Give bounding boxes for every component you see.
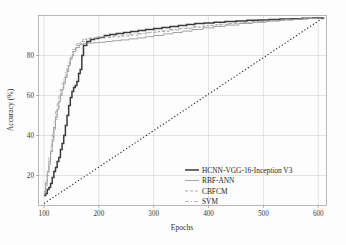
accuracy-vs-epochs-chart: 100200300400500600 20406080 Epochs Accur… [0, 0, 346, 245]
plot-frame [39, 16, 327, 206]
x-axis-tick-labels: 100200300400500600 [39, 206, 324, 218]
grid-lines [39, 16, 327, 206]
y-axis-tick-labels: 20406080 [27, 52, 39, 180]
y-tick-label: 60 [27, 92, 35, 100]
legend-label-1: RBF-ANN [202, 176, 235, 185]
legend-label-2: CBFCM [202, 187, 228, 196]
y-tick-label: 80 [27, 52, 35, 60]
legend-label-0: HCNN-VGG-16-Inception V3 [202, 166, 293, 175]
x-tick-label: 600 [313, 210, 324, 218]
y-tick-label: 20 [27, 172, 35, 180]
x-axis-title: Epochs [171, 223, 193, 232]
x-tick-label: 400 [203, 210, 214, 218]
chart-screenshot: 100200300400500600 20406080 Epochs Accur… [0, 0, 346, 245]
legend-label-3: SVM [202, 197, 218, 206]
x-tick-label: 500 [258, 210, 269, 218]
x-tick-label: 300 [148, 210, 159, 218]
chart-legend: HCNN-VGG-16-Inception V3RBF-ANNCBFCMSVM [185, 166, 293, 207]
y-tick-label: 40 [27, 132, 35, 140]
y-axis-title: Accuracy (%) [6, 88, 15, 131]
x-tick-label: 100 [39, 210, 50, 218]
x-tick-label: 200 [93, 210, 104, 218]
